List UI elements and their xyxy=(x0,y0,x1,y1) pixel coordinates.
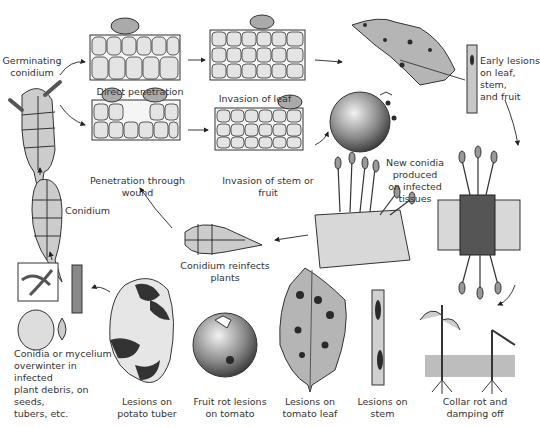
stem-lesion-icon xyxy=(372,290,384,385)
label-penetration-through-wound: Penetration through wound xyxy=(80,175,195,199)
tomato-leaf-lesion-icon xyxy=(280,268,347,392)
tomato-early-lesion-icon xyxy=(330,92,397,152)
label-conidium: Conidium xyxy=(65,205,115,217)
label-direct-penetration: Direct penetration xyxy=(95,86,185,98)
tomato-fruit-rot-icon xyxy=(193,313,257,377)
label-fruit-rot: Fruit rot lesions on tomato xyxy=(190,396,270,420)
label-germinating-conidium: Germinating conidium xyxy=(2,55,62,79)
label-invasion-of-leaf: Invasion of leaf xyxy=(215,93,295,105)
reinfecting-conidium-icon xyxy=(185,224,262,255)
potato-tuber-lesion-icon xyxy=(110,279,174,383)
label-early-lesions: Early lesions on leaf, stem, and fruit xyxy=(480,55,540,103)
collar-rot-seedlings-icon xyxy=(420,305,515,394)
sporulating-tissue-right xyxy=(438,146,520,299)
label-overwinter: Conidia or mycelium overwinter in infect… xyxy=(14,348,114,420)
invasion-of-leaf-tissue xyxy=(210,15,305,80)
label-lesions-tomato-leaf: Lesions on tomato leaf xyxy=(280,396,340,420)
label-invasion-of-stem-or-fruit: Invasion of stem or fruit xyxy=(213,175,323,199)
direct-penetration-tissue xyxy=(90,18,180,80)
label-lesions-stem: Lesions on stem xyxy=(345,396,420,420)
label-conidium-reinfects: Conidium reinfects plants xyxy=(170,260,280,284)
label-collar-rot: Collar rot and damping off xyxy=(435,396,515,420)
label-lesions-potato: Lesions on potato tuber xyxy=(112,396,182,420)
label-new-conidia: New conidia produced on infected tissues xyxy=(385,157,445,205)
overwintering-inset xyxy=(18,263,82,350)
